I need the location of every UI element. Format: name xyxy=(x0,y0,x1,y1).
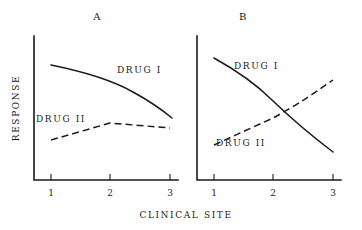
panel-b-series-drug-ii xyxy=(214,80,333,145)
panel-b: B 1 2 3 DRUG I DRUG II xyxy=(197,11,341,198)
panel-b-title: B xyxy=(239,11,247,22)
two-panel-line-chart: A 1 2 3 DRUG I DRUG II B xyxy=(0,0,362,230)
panel-b-axes xyxy=(197,36,341,180)
panel-b-x-ticks xyxy=(214,174,333,180)
panel-a-x-tick-labels: 1 2 3 xyxy=(48,188,173,198)
panel-a-label-drug-ii: DRUG II xyxy=(36,114,86,124)
panel-a-axes xyxy=(34,36,178,180)
panel-a-label-drug-i: DRUG I xyxy=(117,65,162,75)
panel-a: A 1 2 3 DRUG I DRUG II xyxy=(34,11,178,198)
panel-b-tick-label-1: 1 xyxy=(211,188,217,198)
panel-a-title: A xyxy=(92,11,101,22)
panel-a-series-drug-ii xyxy=(51,123,170,140)
x-axis-title: CLINICAL SITE xyxy=(139,210,232,220)
panel-b-x-tick-labels: 1 2 3 xyxy=(211,188,336,198)
panel-b-tick-label-2: 2 xyxy=(270,188,276,198)
panel-b-label-drug-i: DRUG I xyxy=(234,61,279,71)
panel-a-tick-label-3: 3 xyxy=(167,188,173,198)
panel-b-tick-label-3: 3 xyxy=(330,188,336,198)
panel-a-x-ticks xyxy=(51,174,170,180)
panel-b-label-drug-ii: DRUG II xyxy=(216,138,266,148)
panel-a-tick-label-2: 2 xyxy=(107,188,113,198)
y-axis-title: RESPONSE xyxy=(11,75,21,141)
figure-container: A 1 2 3 DRUG I DRUG II B xyxy=(0,0,362,230)
panel-a-tick-label-1: 1 xyxy=(48,188,54,198)
